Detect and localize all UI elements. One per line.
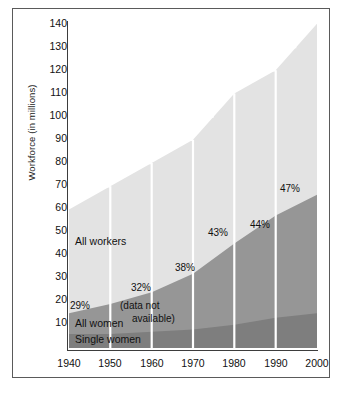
annotation-1990-pct: 44% — [250, 219, 270, 231]
series-label-all-women: All women — [75, 317, 123, 329]
annotation-1950-no-data-line2: available) — [132, 313, 175, 325]
annotation-2000-pct: 47% — [280, 183, 300, 195]
y-tick-40: 40 — [33, 248, 67, 259]
y-tick-70: 70 — [33, 179, 67, 190]
y-tick-50: 50 — [33, 225, 67, 236]
y-tick-80: 80 — [33, 156, 67, 167]
y-tick-100: 100 — [33, 110, 67, 121]
annotation-1950-no-data-line1: (data not — [120, 300, 159, 312]
annotation-1960-pct: 32% — [131, 282, 151, 294]
y-tick-130: 130 — [33, 41, 67, 52]
x-tick-1990: 1990 — [254, 357, 298, 369]
chart-frame: Workforce (in millions) 140 130 120 110 … — [12, 8, 330, 378]
y-tick-30: 30 — [33, 271, 67, 282]
x-tick-1960: 1960 — [130, 357, 174, 369]
x-tick-1940: 1940 — [47, 357, 91, 369]
plot-area: All workers All women Single women 29% (… — [69, 23, 317, 348]
series-label-all-workers: All workers — [75, 235, 126, 247]
series-label-single-women: Single women — [75, 333, 141, 345]
y-tick-10: 10 — [33, 317, 67, 328]
x-axis-tick-labels: 1940 1950 1960 1970 1980 1990 2000 — [13, 357, 331, 377]
y-tick-110: 110 — [33, 87, 67, 98]
annotation-1980-pct: 43% — [208, 227, 228, 239]
y-tick-60: 60 — [33, 202, 67, 213]
y-axis-line — [67, 21, 68, 350]
x-tick-2000: 2000 — [295, 357, 339, 369]
x-tick-1970: 1970 — [171, 357, 215, 369]
y-tick-140: 140 — [33, 18, 67, 29]
annotation-1970-pct: 38% — [175, 262, 195, 274]
x-axis-line — [67, 350, 318, 351]
x-tick-1980: 1980 — [212, 357, 256, 369]
y-tick-90: 90 — [33, 133, 67, 144]
y-axis-tick-labels: 140 130 120 110 100 90 80 70 60 50 40 30… — [31, 9, 67, 379]
x-tick-1950: 1950 — [88, 357, 132, 369]
annotation-1940-pct: 29% — [70, 300, 90, 312]
y-tick-120: 120 — [33, 64, 67, 75]
y-tick-20: 20 — [33, 294, 67, 305]
